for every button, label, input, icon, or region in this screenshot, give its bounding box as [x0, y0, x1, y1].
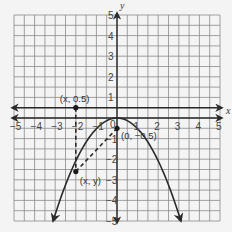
x-tick-label: 5	[216, 121, 222, 132]
point-marker	[73, 105, 78, 110]
coordinate-plane: xy−5−4−3−2−112345054321−1−2−3−4−5(x, 0.5…	[0, 0, 232, 232]
x-tick-label: −4	[31, 121, 43, 132]
point-label: (x, y)	[80, 175, 101, 186]
y-axis-label: y	[119, 0, 125, 11]
y-tick-label: −2	[106, 154, 118, 165]
point-label: (0, −0.5)	[121, 130, 157, 141]
x-axis-label: x	[225, 105, 231, 116]
y-tick-label: −3	[106, 175, 118, 186]
y-tick-label: 3	[108, 51, 114, 62]
origin-label: 0	[110, 119, 116, 130]
x-tick-label: −2	[72, 121, 84, 132]
y-tick-label: −5	[106, 216, 118, 227]
x-tick-label: 4	[195, 121, 201, 132]
labels: xy−5−4−3−2−112345054321−1−2−3−4−5(x, 0.5…	[10, 0, 231, 227]
x-tick-label: 3	[175, 121, 181, 132]
y-tick-label: −4	[106, 195, 118, 206]
y-tick-label: −1	[106, 134, 118, 145]
x-tick-label: −1	[92, 121, 104, 132]
y-tick-label: 5	[108, 10, 114, 21]
point-label: (x, 0.5)	[60, 93, 90, 104]
y-tick-label: 4	[108, 31, 114, 42]
x-tick-label: −3	[51, 121, 63, 132]
point-marker	[73, 169, 78, 174]
x-tick-label: −5	[10, 121, 22, 132]
y-tick-label: 1	[108, 92, 114, 103]
y-tick-label: 2	[108, 72, 114, 83]
